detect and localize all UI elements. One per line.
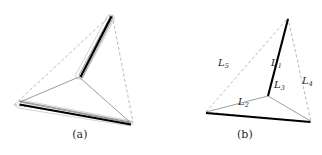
thin-edge-base-a xyxy=(20,102,131,123)
thin-edge-L3-b xyxy=(268,96,311,121)
thick-segment-base-b xyxy=(206,113,311,122)
thick-segment-upper-a xyxy=(81,17,112,78)
thin-edge-L2-b xyxy=(206,96,268,112)
edge-label-L2: L2 xyxy=(237,96,249,109)
thin-edge-left-a xyxy=(20,77,79,102)
edge-label-L3: L3 xyxy=(273,79,285,92)
thick-segments-b xyxy=(206,19,311,122)
dashed-triangle-outline-b xyxy=(206,18,311,122)
thin-edge-base-upper-a xyxy=(19,101,130,122)
thin-edge-upper-inner-a xyxy=(79,17,110,75)
thick-segment-lower-a xyxy=(20,105,132,125)
subfigure-caption-a: (a) xyxy=(45,128,115,141)
subfigure-b: L1 L2 L3 L4 L5 xyxy=(206,18,313,122)
subfigure-a xyxy=(14,14,133,126)
edge-label-L5: L5 xyxy=(217,57,229,70)
figure-container: L1 L2 L3 L4 L5 (a) (b) xyxy=(0,0,322,155)
subfigure-caption-b: (b) xyxy=(210,128,280,141)
dashed-triangle-b xyxy=(206,18,311,122)
